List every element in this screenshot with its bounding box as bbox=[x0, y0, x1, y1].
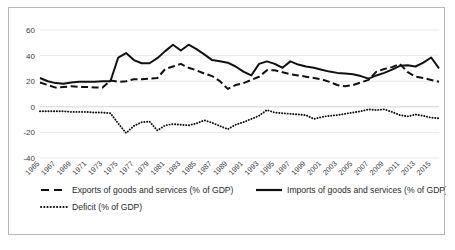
x-tick-group: 1969 bbox=[55, 159, 73, 177]
x-axis-tick-label: 1979 bbox=[133, 159, 151, 177]
y-axis-tick-label: 40 bbox=[26, 52, 35, 61]
x-tick-group: 1985 bbox=[180, 159, 198, 177]
x-axis-tick-label: 1967 bbox=[39, 159, 57, 177]
x-axis-tick-label: 1983 bbox=[164, 159, 182, 177]
x-axis-tick-label: 2001 bbox=[305, 159, 323, 177]
x-axis-tick-label: 1975 bbox=[102, 159, 120, 177]
y-axis-tick-label: 0 bbox=[31, 103, 36, 112]
x-axis-tick-label: 1989 bbox=[211, 159, 229, 177]
x-axis-tick-label: 2003 bbox=[321, 159, 339, 177]
y-axis-tick-label: 60 bbox=[26, 26, 35, 35]
legend-label-2[interactable]: Deficit (% of GDP) bbox=[72, 202, 142, 212]
line-chart: 6040200-20-40196519671969197119731975197… bbox=[9, 8, 446, 236]
x-axis-tick-label: 1985 bbox=[180, 159, 198, 177]
x-tick-group: 2001 bbox=[305, 159, 323, 177]
x-tick-group: 1999 bbox=[289, 159, 307, 177]
x-tick-group: 2015 bbox=[415, 159, 433, 177]
x-axis-tick-label: 1971 bbox=[70, 159, 88, 177]
x-tick-group: 2007 bbox=[352, 159, 370, 177]
x-tick-group: 1973 bbox=[86, 159, 104, 177]
x-axis-tick-label: 1997 bbox=[274, 159, 292, 177]
x-axis-tick-label: 2013 bbox=[399, 159, 417, 177]
x-tick-group: 1997 bbox=[274, 159, 292, 177]
x-tick-group: 1989 bbox=[211, 159, 229, 177]
x-tick-group: 1987 bbox=[196, 159, 214, 177]
x-tick-group: 2011 bbox=[384, 159, 402, 177]
legend-label-0[interactable]: Exports of goods and services (% of GDP) bbox=[72, 185, 234, 195]
x-axis-tick-label: 1977 bbox=[117, 159, 135, 177]
y-axis-tick-label: 20 bbox=[26, 77, 35, 86]
x-axis-tick-label: 1999 bbox=[289, 159, 307, 177]
x-axis-tick-label: 2015 bbox=[415, 159, 433, 177]
x-tick-group: 2005 bbox=[336, 159, 354, 177]
x-axis-tick-label: 1973 bbox=[86, 159, 104, 177]
x-tick-group: 2009 bbox=[368, 159, 386, 177]
x-axis-tick-label: 1995 bbox=[258, 159, 276, 177]
x-axis-tick-label: 2005 bbox=[336, 159, 354, 177]
x-axis-tick-label: 2011 bbox=[384, 159, 402, 177]
x-tick-group: 2003 bbox=[321, 159, 339, 177]
x-axis-tick-label: 1969 bbox=[55, 159, 73, 177]
x-tick-group: 1977 bbox=[117, 159, 135, 177]
x-tick-group: 2013 bbox=[399, 159, 417, 177]
x-tick-group: 1979 bbox=[133, 159, 151, 177]
x-axis-tick-label: 2007 bbox=[352, 159, 370, 177]
x-tick-group: 1983 bbox=[164, 159, 182, 177]
x-axis-tick-label: 1981 bbox=[149, 159, 167, 177]
x-tick-group: 1981 bbox=[149, 159, 167, 177]
x-tick-group: 1993 bbox=[242, 159, 260, 177]
x-tick-group: 1975 bbox=[102, 159, 120, 177]
x-axis-tick-label: 2009 bbox=[368, 159, 386, 177]
x-tick-group: 1991 bbox=[227, 159, 245, 177]
series-line-2 bbox=[40, 109, 439, 133]
y-axis-tick-label: -20 bbox=[23, 128, 35, 137]
series-line-0 bbox=[40, 64, 439, 89]
legend-label-1[interactable]: Imports of goods and services (% of GDP) bbox=[287, 185, 446, 195]
x-axis-tick-label: 1993 bbox=[242, 159, 260, 177]
x-axis-tick-label: 1987 bbox=[196, 159, 214, 177]
x-tick-group: 1995 bbox=[258, 159, 276, 177]
x-tick-group: 1967 bbox=[39, 159, 57, 177]
chart-frame: 6040200-20-40196519671969197119731975197… bbox=[8, 7, 445, 235]
series-line-1 bbox=[40, 45, 439, 84]
x-tick-group: 1971 bbox=[70, 159, 88, 177]
x-axis-tick-label: 1991 bbox=[227, 159, 245, 177]
chart-plot-area: 6040200-20-40196519671969197119731975197… bbox=[9, 8, 446, 236]
